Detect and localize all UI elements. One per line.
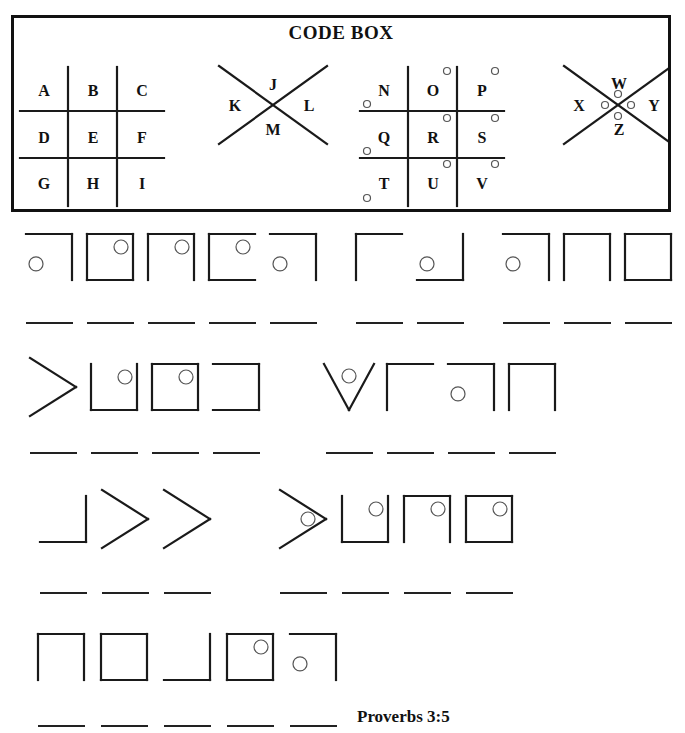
cipher-glyph bbox=[625, 234, 671, 280]
cipher-glyph bbox=[164, 634, 210, 680]
cipher-glyph bbox=[356, 234, 402, 280]
cipher-glyph bbox=[280, 490, 326, 548]
scripture-reference: Proverbs 3:5 bbox=[357, 707, 450, 727]
cipher-glyph bbox=[40, 496, 86, 542]
cipher-glyph bbox=[209, 234, 255, 280]
cipher-glyph bbox=[466, 496, 512, 542]
cipher-glyph bbox=[164, 490, 210, 548]
cipher-glyph bbox=[91, 364, 137, 410]
cipher-glyph bbox=[387, 364, 433, 410]
cipher-glyph bbox=[26, 234, 72, 280]
cipher-glyph bbox=[148, 234, 194, 280]
cipher-glyph bbox=[227, 634, 273, 680]
cipher-glyph bbox=[324, 364, 374, 410]
cipher-glyph bbox=[87, 234, 133, 280]
cipher-glyph bbox=[30, 358, 76, 416]
cipher-glyph bbox=[417, 234, 463, 280]
cipher-glyph bbox=[509, 364, 555, 410]
cipher-glyph bbox=[270, 234, 316, 280]
cipher-glyph bbox=[404, 496, 450, 542]
cipher-glyph bbox=[342, 496, 388, 542]
cipher-glyph bbox=[213, 364, 259, 410]
cipher-glyph bbox=[102, 490, 148, 548]
cipher-glyph bbox=[290, 634, 336, 680]
cipher-glyph bbox=[152, 364, 198, 410]
cipher-glyph bbox=[503, 234, 549, 280]
cipher-puzzle bbox=[0, 0, 685, 733]
cipher-glyph bbox=[38, 634, 84, 680]
cipher-glyph bbox=[448, 364, 494, 410]
cipher-glyph bbox=[564, 234, 610, 280]
cipher-glyph bbox=[101, 634, 147, 680]
